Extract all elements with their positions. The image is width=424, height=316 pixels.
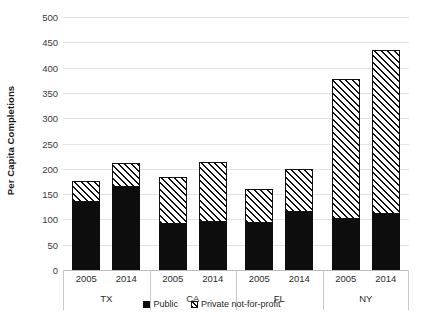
bar-NY-2005[interactable] bbox=[332, 79, 360, 270]
x-tick-label-FL-2005: 2005 bbox=[239, 273, 279, 284]
y-tick-label-250: 250 bbox=[42, 138, 58, 149]
x-tick-label-NY-2005: 2005 bbox=[326, 273, 366, 284]
y-axis-title: Per Capita Completions bbox=[0, 0, 22, 280]
bar-CA-2014[interactable] bbox=[199, 162, 227, 270]
bar-segment-private-not-for-profit[interactable] bbox=[112, 163, 140, 187]
bar-segment-private-not-for-profit[interactable] bbox=[372, 50, 400, 214]
y-tick-label-150: 150 bbox=[42, 189, 58, 200]
bar-segment-private-not-for-profit[interactable] bbox=[159, 177, 187, 224]
x-tick-label-NY-2014: 2014 bbox=[366, 273, 406, 284]
legend-label-private-not-for-profit: Private not-for-profit bbox=[201, 299, 281, 309]
bar-FL-2014[interactable] bbox=[285, 169, 313, 270]
bar-segment-public[interactable] bbox=[372, 214, 400, 270]
y-tick-label-100: 100 bbox=[42, 214, 58, 225]
bar-TX-2014[interactable] bbox=[112, 163, 140, 270]
chart-legend: Public Private not-for-profit bbox=[0, 299, 424, 309]
y-tick-label-450: 450 bbox=[42, 37, 58, 48]
y-tick-label-200: 200 bbox=[42, 163, 58, 174]
x-tick-label-TX-2005: 2005 bbox=[66, 273, 106, 284]
y-tick-label-50: 50 bbox=[47, 239, 58, 250]
bar-segment-public[interactable] bbox=[199, 222, 227, 270]
bar-segment-public[interactable] bbox=[112, 187, 140, 270]
x-tick-label-TX-2014: 2014 bbox=[106, 273, 146, 284]
bar-segment-public[interactable] bbox=[159, 224, 187, 270]
bar-segment-private-not-for-profit[interactable] bbox=[245, 189, 273, 223]
bar-segment-public[interactable] bbox=[285, 212, 313, 270]
bar-FL-2005[interactable] bbox=[245, 189, 273, 270]
bar-NY-2014[interactable] bbox=[372, 50, 400, 270]
y-tick-label-0: 0 bbox=[53, 265, 58, 276]
legend-item-public[interactable]: Public bbox=[143, 299, 178, 309]
bars-layer bbox=[63, 17, 409, 270]
bar-segment-private-not-for-profit[interactable] bbox=[72, 181, 100, 201]
bar-segment-private-not-for-profit[interactable] bbox=[199, 162, 227, 222]
x-tick-label-FL-2014: 2014 bbox=[279, 273, 319, 284]
legend-swatch-public-icon bbox=[143, 301, 150, 308]
chart-container: Per Capita Completions 50045040035030025… bbox=[0, 0, 424, 316]
y-tick-label-500: 500 bbox=[42, 12, 58, 23]
y-tick-label-400: 400 bbox=[42, 62, 58, 73]
bar-segment-public[interactable] bbox=[72, 202, 100, 270]
y-tick-label-350: 350 bbox=[42, 87, 58, 98]
bar-segment-public[interactable] bbox=[332, 219, 360, 270]
bar-segment-private-not-for-profit[interactable] bbox=[332, 79, 360, 220]
bar-segment-private-not-for-profit[interactable] bbox=[285, 169, 313, 212]
y-axis-title-text: Per Capita Completions bbox=[6, 85, 17, 194]
y-tick-label-300: 300 bbox=[42, 113, 58, 124]
bar-TX-2005[interactable] bbox=[72, 181, 100, 270]
y-axis-tick-labels: 500450400350300250200150100500 bbox=[22, 17, 58, 270]
legend-item-private-not-for-profit[interactable]: Private not-for-profit bbox=[191, 299, 281, 309]
bar-segment-public[interactable] bbox=[245, 223, 273, 270]
legend-label-public: Public bbox=[153, 299, 178, 309]
x-tick-label-CA-2005: 2005 bbox=[153, 273, 193, 284]
legend-swatch-private-icon bbox=[191, 301, 198, 308]
x-tick-label-CA-2014: 2014 bbox=[193, 273, 233, 284]
bar-CA-2005[interactable] bbox=[159, 177, 187, 270]
